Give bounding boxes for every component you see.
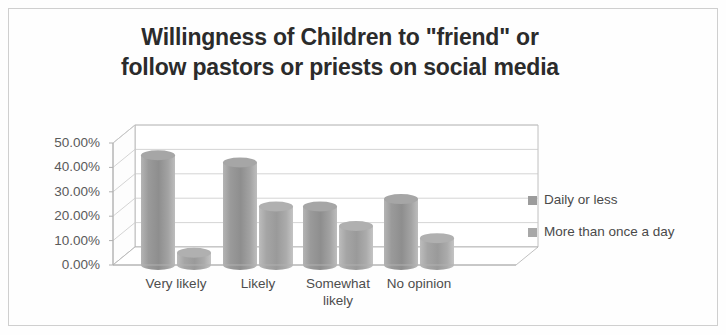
x-axis-category-labels: Very likelyLikelySomewhatlikelyNo opinio… <box>104 276 516 326</box>
y-axis-tick-label: 40.00% <box>24 160 100 174</box>
y-axis-tick-labels: 50.00%40.00%30.00%20.00%10.00%0.00% <box>24 0 100 335</box>
bar-2-series-1 <box>223 158 257 270</box>
bar-4-series-1 <box>384 194 418 270</box>
y-axis-tick-label: 0.00% <box>24 258 100 272</box>
legend-item-1[interactable]: Daily or less <box>528 192 718 208</box>
bar-3-series-1 <box>303 201 337 270</box>
x-axis-tick-label-line: No opinion <box>371 276 467 293</box>
y-axis-tick-label: 10.00% <box>24 234 100 248</box>
x-axis-tick-label: No opinion <box>371 276 467 293</box>
chart-container: Willingness of Children to "friend" or f… <box>0 0 726 335</box>
y-axis-tick-label: 20.00% <box>24 209 100 223</box>
bar-3-series-2 <box>339 221 373 270</box>
y-axis-tick-label: 50.00% <box>24 136 100 150</box>
x-axis-tick-label-line: likely <box>290 293 386 310</box>
chart-legend: Daily or lessMore than once a day <box>528 192 718 256</box>
legend-swatch-icon <box>528 196 537 205</box>
legend-swatch-icon <box>528 228 537 237</box>
bar-1-series-1 <box>141 150 175 270</box>
legend-item-2[interactable]: More than once a day <box>528 224 718 240</box>
legend-label: More than once a day <box>544 225 675 239</box>
bar-4-series-2 <box>420 233 454 270</box>
plot-area: 50.00%40.00%30.00%20.00%10.00%0.00% Very… <box>0 0 726 335</box>
bar-1-series-2 <box>177 248 211 270</box>
legend-label: Daily or less <box>544 193 618 207</box>
y-axis-tick-label: 30.00% <box>24 185 100 199</box>
bar-2-series-2 <box>259 201 293 270</box>
